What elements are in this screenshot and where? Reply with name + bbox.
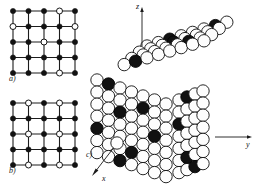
lattice-atom-filled xyxy=(26,55,31,60)
lattice-atom-filled xyxy=(26,8,31,13)
sphere-light-host xyxy=(102,90,114,102)
sphere-light-host xyxy=(91,110,103,122)
figure-container: a) b) z y x c) xyxy=(0,0,257,193)
sphere-light-host xyxy=(160,170,172,182)
lattice-atom-filled xyxy=(57,24,62,29)
lattice-b-diagram xyxy=(8,98,84,170)
sphere-dark-impurity xyxy=(91,122,103,134)
lattice-atom-filled xyxy=(72,55,77,60)
sphere-light-host xyxy=(137,138,149,150)
lattice-vacancy-open xyxy=(26,162,32,168)
lattice-atom-filled xyxy=(41,100,46,105)
axis-label-y: y xyxy=(246,140,250,149)
sphere-dark-impurity xyxy=(114,106,126,118)
sphere-light-host xyxy=(148,154,160,166)
sphere-light-host xyxy=(125,98,137,110)
lattice-atom-filled xyxy=(10,147,15,152)
lattice-vacancy-open xyxy=(10,24,16,30)
sphere-light-host xyxy=(198,35,210,47)
sphere-light-host xyxy=(160,98,172,110)
lattice-atom-filled xyxy=(10,55,15,60)
sphere-dark-impurity xyxy=(129,55,141,67)
lattice-atom-filled xyxy=(72,39,77,44)
sphere-light-host xyxy=(91,74,103,86)
sphere-dark-impurity xyxy=(137,102,149,114)
sphere-light-host xyxy=(197,97,209,109)
lattice-vacancy-open xyxy=(26,100,32,106)
sphere-light-host xyxy=(197,85,209,97)
sphere-light-host xyxy=(102,150,114,162)
sphere-light-host xyxy=(148,118,160,130)
sphere-light-host xyxy=(137,150,149,162)
sphere-light-host xyxy=(197,145,209,157)
lattice-vacancy-open xyxy=(26,131,32,137)
lattice-atom-filled xyxy=(41,55,46,60)
lattice-atom-filled xyxy=(41,162,46,167)
sphere-light-host xyxy=(125,158,137,170)
lattice-vacancy-open xyxy=(57,100,63,106)
sphere-light-host xyxy=(125,134,137,146)
lattice-atom-filled xyxy=(72,100,77,105)
lattice-atom-filled xyxy=(10,100,15,105)
sphere-light-host xyxy=(197,121,209,133)
axis-arrow-z-icon xyxy=(140,7,144,12)
sphere-light-host xyxy=(125,86,137,98)
lattice-vacancy-open xyxy=(57,131,63,137)
sphere-light-host xyxy=(125,110,137,122)
sphere-light-host xyxy=(197,157,209,169)
sphere-light-host xyxy=(197,133,209,145)
lattice-atom-filled xyxy=(57,39,62,44)
lattice-vacancy-open xyxy=(57,162,63,168)
lattice-vacancy-open xyxy=(41,39,47,45)
lattice-atom-filled xyxy=(26,39,31,44)
sphere-light-host xyxy=(164,45,176,57)
sphere-light-host xyxy=(102,102,114,114)
lattice-atom-filled xyxy=(41,8,46,13)
lattice-atom-filled xyxy=(26,70,31,75)
lattice-atom-filled xyxy=(10,131,15,136)
sphere-light-host xyxy=(148,94,160,106)
lattice-atom-filled xyxy=(10,116,15,121)
sphere-light-host xyxy=(118,58,130,70)
sphere-dark-impurity xyxy=(102,78,114,90)
lattice-atom-filled xyxy=(72,70,77,75)
lattice-vacancy-open xyxy=(57,70,63,76)
lattice-a-diagram xyxy=(8,6,84,78)
sphere-light-host xyxy=(160,134,172,146)
lattice-atom-filled xyxy=(72,162,77,167)
panel-a-label: a) xyxy=(9,74,16,83)
sphere-light-host xyxy=(114,94,126,106)
sphere-light-host xyxy=(148,106,160,118)
lattice-atom-filled xyxy=(72,116,77,121)
lattice-atom-filled xyxy=(10,39,15,44)
sphere-light-host xyxy=(114,118,126,130)
sphere-light-host xyxy=(141,52,153,64)
sphere-dark-impurity xyxy=(125,146,137,158)
lattice-atom-filled xyxy=(26,24,31,29)
panel-b-label: b) xyxy=(9,166,16,175)
sphere-light-host xyxy=(160,146,172,158)
lattice-atom-filled xyxy=(26,147,31,152)
sphere-light-host xyxy=(137,90,149,102)
sphere-light-host xyxy=(197,109,209,121)
sphere-light-host xyxy=(137,162,149,174)
axis-arrow-y-icon xyxy=(247,135,252,139)
sphere-light-host xyxy=(125,122,137,134)
lattice-vacancy-open xyxy=(72,24,78,30)
sphere-light-host xyxy=(148,142,160,154)
lattice-atom-filled xyxy=(72,131,77,136)
lattice-atom-filled xyxy=(41,70,46,75)
lattice-vacancy-open xyxy=(57,8,63,14)
lattice-atom-filled xyxy=(72,8,77,13)
sphere-light-host xyxy=(186,38,198,50)
lattice-atom-filled xyxy=(57,116,62,121)
sphere-light-host xyxy=(91,134,103,146)
sphere-light-host xyxy=(91,98,103,110)
sphere-dark-impurity xyxy=(114,154,126,166)
sphere-light-host xyxy=(114,82,126,94)
axis-label-x: x xyxy=(102,174,106,183)
sphere-dark-impurity xyxy=(148,130,160,142)
sphere-light-host xyxy=(160,122,172,134)
axis-label-z: z xyxy=(136,2,139,11)
lattice-atom-filled xyxy=(57,147,62,152)
